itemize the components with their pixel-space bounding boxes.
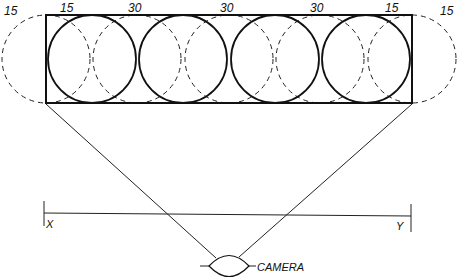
camera-label: CAMERA: [257, 261, 304, 273]
label-segment-2: 30: [128, 1, 142, 15]
scale-line: [44, 213, 411, 216]
field-rectangle: [46, 15, 412, 103]
dashed-circle-4: [276, 15, 364, 103]
scale-label-x: X: [45, 218, 54, 230]
sight-line-right: [239, 104, 412, 257]
label-segment-4: 30: [310, 1, 324, 15]
camera-field-diagram: 15 15 30 30 30 15 15 X Y CAMERA: [0, 0, 459, 279]
label-outer-left: 15: [4, 4, 18, 18]
camera: CAMERA: [200, 256, 304, 277]
solid-circle-3: [231, 15, 319, 103]
dashed-circle-2: [93, 15, 181, 103]
dashed-circles: [2, 15, 456, 103]
solid-circle-2: [139, 15, 227, 103]
scale-label-y: Y: [396, 220, 404, 232]
sight-line-left: [46, 104, 216, 258]
solid-circles: [48, 15, 410, 103]
camera-lens-icon: [209, 256, 249, 277]
solid-circle-1: [48, 15, 136, 103]
label-segment-3: 30: [220, 1, 234, 15]
label-segment-5: 15: [385, 1, 399, 15]
label-outer-right: 15: [440, 4, 454, 18]
solid-circle-4: [322, 15, 410, 103]
label-segment-1: 15: [60, 1, 74, 15]
dashed-circle-3: [185, 15, 273, 103]
scale-bar: X Y: [44, 201, 411, 232]
